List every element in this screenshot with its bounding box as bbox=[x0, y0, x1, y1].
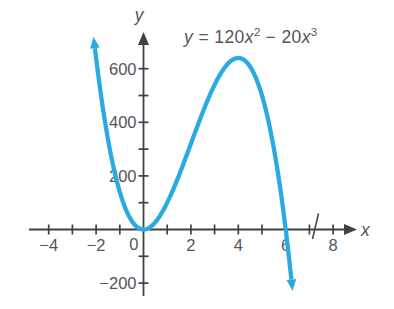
y-axis-arrowhead-icon bbox=[138, 32, 149, 45]
equation-term2-coeff: 20 bbox=[281, 27, 301, 47]
y-tick-label: −200 bbox=[99, 274, 136, 292]
x-axis-letter: x bbox=[360, 220, 371, 240]
y-axis-letter: y bbox=[134, 5, 145, 25]
equation-term1-coeff: 120 bbox=[214, 27, 244, 47]
equation-term2-var: x bbox=[302, 27, 311, 47]
equation-operator: − bbox=[260, 27, 281, 47]
origin-label: 0 bbox=[129, 235, 138, 253]
equation-term1-var: x bbox=[245, 27, 254, 47]
y-tick-label: 600 bbox=[109, 60, 137, 78]
curve-arrowhead-up-icon bbox=[90, 37, 100, 49]
equation-label: y = 120x2 − 20x3 bbox=[184, 26, 317, 48]
equation-equals: = bbox=[193, 27, 214, 47]
curve-arrowhead-down-icon bbox=[287, 279, 297, 291]
tick-labels-group: −4−22468600400200−200 bbox=[39, 60, 337, 292]
x-tick-label: −4 bbox=[39, 236, 58, 254]
x-tick-label: 2 bbox=[186, 236, 195, 254]
x-axis-arrowhead-icon bbox=[344, 224, 357, 235]
axis-break-slash-icon bbox=[313, 214, 319, 240]
x-tick-label: −2 bbox=[87, 236, 106, 254]
x-tick-label: 8 bbox=[329, 236, 338, 254]
equation-y-var: y bbox=[184, 27, 193, 47]
x-tick-label: 4 bbox=[234, 236, 243, 254]
function-graph-figure: −4−22468600400200−200 0 x y y = 120x2 − … bbox=[0, 0, 394, 309]
y-tick-label: 400 bbox=[109, 113, 137, 131]
equation-term2-exponent: 3 bbox=[311, 26, 317, 38]
